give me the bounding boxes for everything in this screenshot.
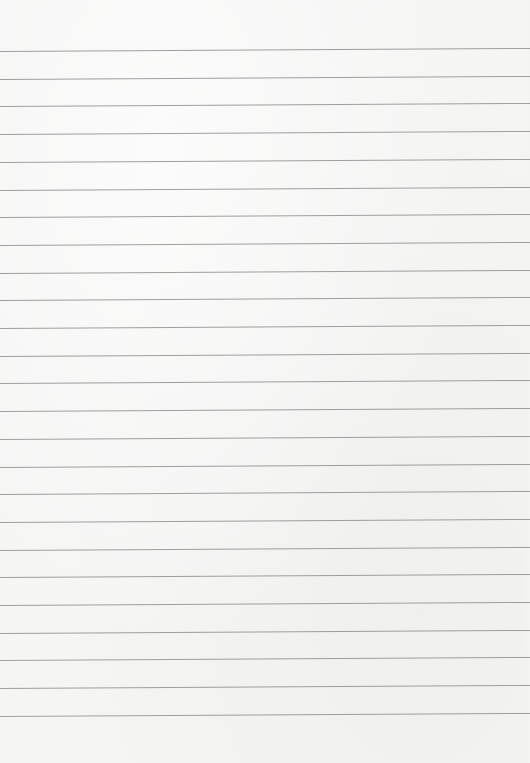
ruled-line: [0, 214, 530, 218]
ruled-line: [0, 380, 530, 384]
ruled-line: [0, 353, 530, 357]
ruled-line: [0, 630, 530, 634]
ruled-line: [0, 574, 530, 578]
ruled-line: [0, 602, 530, 606]
ruled-line: [0, 325, 530, 329]
ruled-line: [0, 436, 530, 440]
ruled-line: [0, 48, 530, 52]
ruled-line: [0, 547, 530, 551]
ruled-line: [0, 270, 530, 274]
ruled-line: [0, 297, 530, 301]
ruled-line: [0, 186, 530, 190]
ruled-line: [0, 103, 530, 107]
ruled-line: [0, 685, 530, 689]
ruled-line: [0, 408, 530, 412]
ruled-line: [0, 463, 530, 467]
ruled-line: [0, 159, 530, 163]
ruled-line: [0, 519, 530, 523]
ruled-line: [0, 76, 530, 80]
ruled-line: [0, 131, 530, 135]
ruled-line: [0, 657, 530, 661]
ruled-line: [0, 713, 530, 717]
ruled-line: [0, 491, 530, 495]
ruled-line: [0, 242, 530, 246]
